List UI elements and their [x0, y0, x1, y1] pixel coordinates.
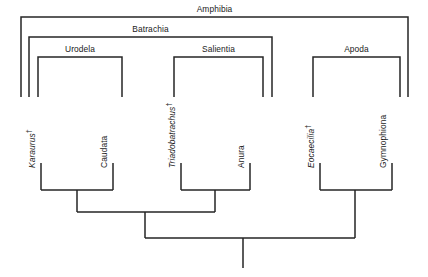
- bracket-urodela: [38, 57, 122, 97]
- clade-label-amphibia: Amphibia: [197, 4, 233, 14]
- dagger-icon: †: [24, 129, 33, 133]
- node-batrachia: [77, 212, 215, 238]
- tip-label-gymnophiona: Gymnophiona: [378, 115, 388, 168]
- cladogram-figure: Amphibia Batrachia Urodela Salientia Apo…: [0, 0, 428, 277]
- bracket-apoda: [313, 57, 400, 97]
- tip-label-anura: Anura: [236, 145, 246, 168]
- node-salientia: [181, 190, 250, 212]
- clade-label-apoda: Apoda: [344, 44, 369, 54]
- clade-label-salientia: Salientia: [202, 44, 235, 54]
- dagger-icon: †: [303, 125, 312, 129]
- dagger-icon: †: [164, 102, 173, 106]
- clade-label-urodela: Urodela: [65, 44, 95, 54]
- clade-label-batrachia: Batrachia: [132, 24, 168, 34]
- tip-label-karaurus: Karaurus†: [27, 129, 37, 168]
- clade-bracket-group: [21, 17, 408, 97]
- tree-branch-group: [41, 163, 392, 268]
- tip-label-caudata: Caudata: [99, 136, 109, 168]
- tip-label-triadobatrachus: Triadobatrachus†: [167, 102, 177, 168]
- node-urodela: [41, 190, 113, 212]
- cladogram-lines: [0, 0, 428, 277]
- tip-label-eocaecilia: Eocaecilia†: [306, 125, 316, 168]
- bracket-salientia: [174, 57, 263, 97]
- node-amphibia: [145, 238, 355, 268]
- node-apoda: [320, 190, 392, 238]
